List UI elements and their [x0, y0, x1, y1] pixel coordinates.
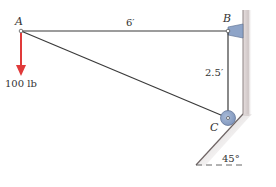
member-ac	[21, 31, 228, 118]
load-label: 100 lb	[5, 78, 37, 89]
dimension-ab: 6′	[126, 17, 135, 28]
dimension-bc: 2.5′	[205, 67, 224, 78]
load-arrow	[16, 33, 26, 76]
wall	[196, 10, 252, 166]
label-b: B	[222, 12, 231, 25]
roller-c	[221, 111, 236, 126]
angle-label: 45°	[222, 153, 240, 164]
pin-b	[226, 29, 230, 33]
label-a: A	[14, 15, 23, 28]
pin-a	[19, 29, 23, 33]
label-c: C	[210, 121, 219, 134]
frame-diagram: A B C 100 lb 6′ 2.5′ 45°	[0, 0, 276, 187]
members	[21, 31, 228, 118]
pin-bracket-b	[228, 24, 243, 38]
